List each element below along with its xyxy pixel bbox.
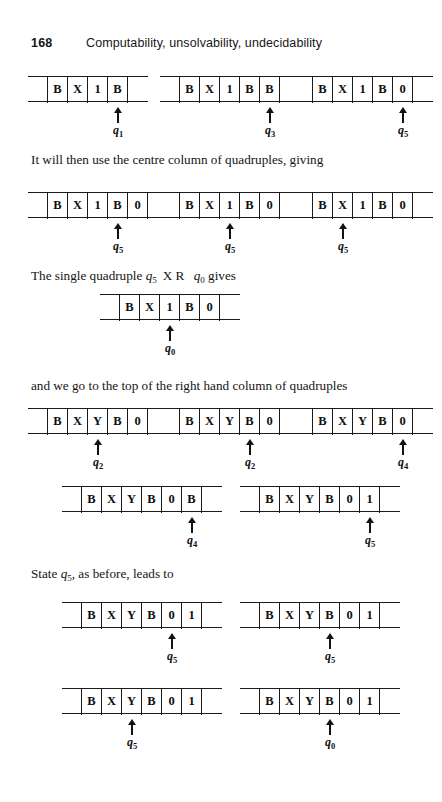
tape-strip: BX1B0 <box>293 192 433 218</box>
tape-cell: B <box>260 77 280 103</box>
tape-cells: BXYB01 <box>240 603 400 627</box>
state-subscript: 2 <box>99 461 103 471</box>
tape-cell: 0 <box>162 603 182 629</box>
arrow-tip <box>226 223 234 229</box>
tape-cell: X <box>333 77 353 103</box>
tape-head: q5 <box>332 223 354 254</box>
tape-cell: X <box>200 409 220 435</box>
state-subscript: 5 <box>119 245 123 255</box>
para4-state-sub: 5 <box>67 573 72 583</box>
tape-head: q5 <box>392 107 414 138</box>
arrow-tip <box>399 107 407 113</box>
tape-cell: 1 <box>182 689 202 715</box>
tape-cell: B <box>260 603 280 629</box>
tape-3-1: BX1B0q0 <box>100 294 240 320</box>
state-label: q5 <box>107 239 129 254</box>
state-letter: q <box>398 455 404 469</box>
arrow-tip <box>339 223 347 229</box>
tape-cell: 0 <box>200 295 220 321</box>
state-letter: q <box>325 649 331 663</box>
tape-strip: BXYB01 <box>240 602 400 628</box>
arrow-tip <box>326 633 334 639</box>
tape-cell: B <box>82 603 102 629</box>
tape-cell: Y <box>300 603 320 629</box>
arrow-up-icon <box>121 719 143 735</box>
tape-cell: B <box>373 409 393 435</box>
tape-cell-blank <box>380 487 400 513</box>
state-label: q1 <box>107 123 129 138</box>
tape-cell: Y <box>220 409 240 435</box>
tape-cell: 0 <box>162 487 182 513</box>
tape-strip: BX1B <box>28 76 148 102</box>
tape-cell-blank <box>240 603 260 629</box>
arrow-tip <box>188 517 196 523</box>
tape-cell: B <box>120 295 140 321</box>
tape-strip: BX1BB <box>160 76 300 102</box>
tape-cell: 1 <box>360 603 380 629</box>
state-subscript: 5 <box>133 741 137 751</box>
state-label: q5 <box>219 239 241 254</box>
state-subscript: 1 <box>119 129 123 139</box>
state-subscript: 5 <box>344 245 348 255</box>
tape-cell: B <box>108 409 128 435</box>
tape-cell: B <box>48 409 68 435</box>
arrow-up-icon <box>359 517 381 533</box>
tape-cells: BXYB0B <box>62 487 222 511</box>
tape-cell-blank <box>380 689 400 715</box>
tape-cell: B <box>82 487 102 513</box>
state-label: q0 <box>319 735 341 750</box>
tape-cell: X <box>68 193 88 219</box>
tape-1-3: BX1B0q5 <box>293 76 433 102</box>
tape-cell-blank <box>202 603 222 629</box>
tape-cell: B <box>313 409 333 435</box>
tape-cell: B <box>180 409 200 435</box>
tape-cell-blank <box>380 603 400 629</box>
tape-strip: BXYB0 <box>28 408 168 434</box>
state-letter: q <box>93 455 99 469</box>
tape-cell-blank <box>28 193 48 219</box>
tape-cell-blank <box>293 77 313 103</box>
para2-tail: gives <box>205 268 236 283</box>
state-letter: q <box>398 123 404 137</box>
tape-cell: B <box>108 77 128 103</box>
state-subscript: 0 <box>171 347 175 357</box>
state-letter: q <box>365 533 371 547</box>
arrow-up-icon <box>181 517 203 533</box>
tape-cell: X <box>102 487 122 513</box>
state-label: q4 <box>181 533 203 548</box>
state-subscript: 5 <box>404 129 408 139</box>
tape-cell-blank <box>160 193 180 219</box>
tape-cell: 0 <box>393 193 413 219</box>
tape-cell: Y <box>88 409 108 435</box>
para4-lead: State <box>31 566 61 581</box>
tape-strip: BXYB0 <box>160 408 300 434</box>
tape-cell: X <box>280 487 300 513</box>
tape-strip: BXYB0 <box>293 408 433 434</box>
arrow-up-icon <box>87 439 109 455</box>
tape-cell: B <box>260 487 280 513</box>
arrow-up-icon <box>161 633 183 649</box>
tape-cell: B <box>313 77 333 103</box>
state-subscript: 5 <box>331 655 335 665</box>
tape-cell: X <box>333 409 353 435</box>
tape-cell-blank <box>128 77 148 103</box>
tape-cell: 1 <box>160 295 180 321</box>
tape-cells: BXYB01 <box>62 689 222 713</box>
tape-cell: 1 <box>353 193 373 219</box>
tape-row-7: BXYB01q5BXYB01q0 <box>0 688 442 752</box>
arrow-up-icon <box>319 719 341 735</box>
tape-cell: 1 <box>88 193 108 219</box>
tape-cell: X <box>102 603 122 629</box>
tape-head: q4 <box>181 517 203 548</box>
tape-cell: 0 <box>162 689 182 715</box>
tape-cell: X <box>333 193 353 219</box>
state-letter: q <box>113 239 119 253</box>
tape-cell: B <box>182 487 202 513</box>
tape-cell: 0 <box>393 77 413 103</box>
state-subscript: 4 <box>193 539 197 549</box>
tape-4-3: BXYB0q4 <box>293 408 433 434</box>
tape-strip: BX1B0 <box>160 192 300 218</box>
arrow-tip <box>326 719 334 725</box>
tape-cell-blank <box>202 689 222 715</box>
tape-cells: BX1B0 <box>160 193 300 217</box>
